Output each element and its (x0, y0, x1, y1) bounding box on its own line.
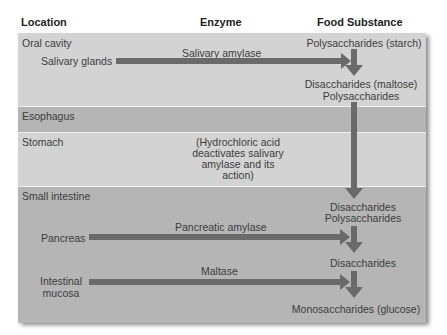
substance-disaccharides-maltose: Disaccharides (maltose) (296, 78, 426, 90)
arrow-down-3-head (345, 287, 363, 298)
stomach-note-line4: action) (168, 169, 308, 181)
source-intestinal-mucosa-2: mucosa (36, 287, 86, 299)
enzyme-maltase: Maltase (201, 265, 238, 277)
arrow-down-2-shaft (351, 226, 357, 243)
source-salivary-glands: Salivary glands (41, 55, 112, 67)
digestion-panel: Oral cavity Salivary glands Salivary amy… (18, 33, 426, 322)
row-esophagus (18, 106, 426, 132)
arrow-salivary-amylase (116, 58, 342, 64)
substance-disaccharides-2: Disaccharides (308, 257, 418, 269)
substance-monosaccharides-glucose: Monosaccharides (glucose) (288, 303, 424, 315)
source-intestinal-mucosa-1: Intestinal (36, 275, 86, 287)
header-location: Location (21, 16, 67, 28)
source-pancreas: Pancreas (41, 232, 85, 244)
substance-polysaccharides: Polysaccharides (296, 90, 426, 102)
enzyme-pancreatic-amylase: Pancreatic amylase (175, 221, 267, 233)
substance-polysaccharides-2: Polysaccharides (308, 212, 418, 224)
header-enzyme: Enzyme (200, 16, 242, 28)
location-oral-cavity: Oral cavity (22, 37, 72, 49)
substance-polysaccharides-starch: Polysaccharides (starch) (299, 37, 429, 49)
arrow-pancreatic-amylase (89, 234, 341, 240)
arrow-down-long-head (345, 188, 363, 199)
location-small-intestine: Small intestine (22, 190, 90, 202)
arrow-down-shaft (351, 49, 357, 66)
arrow-maltase (89, 279, 341, 285)
location-stomach: Stomach (22, 136, 63, 148)
arrow-down-long-shaft (351, 102, 357, 188)
arrow-down-2-head (345, 242, 363, 253)
header-food-substance: Food Substance (317, 16, 403, 28)
location-esophagus: Esophagus (22, 110, 75, 122)
arrow-down-head (345, 65, 363, 76)
arrow-down-3-shaft (351, 271, 357, 288)
